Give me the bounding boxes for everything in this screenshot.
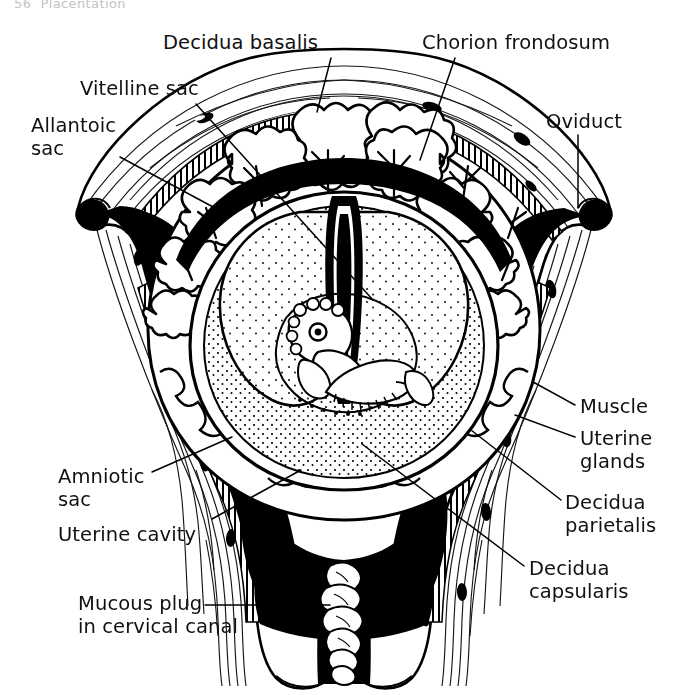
label-chorion-frondosum: Chorion frondosum <box>422 31 610 54</box>
leader-uterine-glands <box>515 415 575 437</box>
label-oviduct: Oviduct <box>546 110 622 133</box>
label-amniotic-sac: Amniotic sac <box>58 465 145 511</box>
leader-muscle <box>533 382 575 405</box>
label-allantoic-sac: Allantoic sac <box>31 114 116 160</box>
figure-container: 56 Placentation <box>0 0 688 695</box>
label-vitelline-sac: Vitelline sac <box>80 77 199 100</box>
label-muscle: Muscle <box>580 395 648 418</box>
label-mucous-plug: Mucous plug in cervical canal <box>78 592 238 638</box>
label-decidua-basalis: Decidua basalis <box>163 31 318 54</box>
label-decidua-parietalis: Decidua parietalis <box>565 491 656 537</box>
label-uterine-cavity: Uterine cavity <box>58 523 196 546</box>
label-decidua-capsularis: Decidua capsularis <box>529 557 629 603</box>
label-uterine-glands: Uterine glands <box>580 427 652 473</box>
